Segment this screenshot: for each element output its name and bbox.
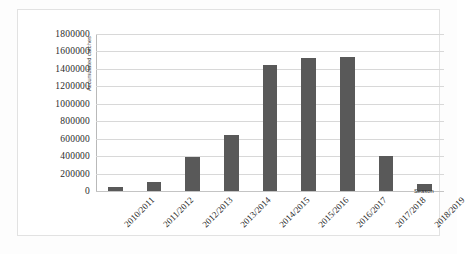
x-axis-tick-label: 2018/2019 [432, 195, 466, 229]
x-tick-slot: 2010/2011 [96, 193, 135, 253]
x-tick-slot: 2016/2017 [328, 193, 367, 253]
y-axis-title-text: Accumulated catches [86, 36, 92, 91]
bar[interactable] [185, 157, 200, 191]
x-tick-slot: 2012/2013 [173, 193, 212, 253]
y-axis-tick-label: 0 [85, 186, 90, 196]
y-axis-tick-label: 200000 [60, 169, 90, 179]
bar-slot [251, 34, 290, 191]
bar-slot [173, 34, 212, 191]
bar[interactable] [108, 187, 123, 191]
bar-slot [96, 34, 135, 191]
bar[interactable] [301, 58, 316, 191]
bar-slot [405, 34, 444, 191]
bar[interactable] [224, 135, 239, 191]
x-axis-title: Season [414, 188, 434, 194]
y-axis-tick-label: 600000 [60, 134, 90, 144]
bar[interactable] [263, 65, 278, 191]
gridline [96, 191, 444, 192]
bar-slot [289, 34, 328, 191]
bar-series [96, 34, 444, 191]
x-tick-slot: 2017/2018 [367, 193, 406, 253]
x-tick-slot: 2011/2012 [135, 193, 174, 253]
x-axis-tick-labels: 2010/20112011/20122012/20132013/20142014… [96, 193, 444, 253]
bar[interactable] [147, 182, 162, 191]
bar-slot [367, 34, 406, 191]
bar[interactable] [340, 57, 355, 191]
plot-area [96, 34, 444, 191]
x-tick-slot: 2013/2014 [212, 193, 251, 253]
x-tick-slot: 2014/2015 [251, 193, 290, 253]
x-tick-slot: 2015/2016 [289, 193, 328, 253]
bar-slot [328, 34, 367, 191]
bar[interactable] [379, 156, 394, 191]
y-axis-tick-labels: 0200000400000600000800000100000012000001… [18, 10, 90, 235]
x-tick-slot: 2018/2019 [405, 193, 444, 253]
y-axis-tick-label: 400000 [60, 151, 90, 161]
y-axis-title: Accumulated catches [84, 36, 94, 122]
bar-slot [135, 34, 174, 191]
chart-plot-frame: 0200000400000600000800000100000012000001… [17, 9, 440, 236]
bar-slot [212, 34, 251, 191]
